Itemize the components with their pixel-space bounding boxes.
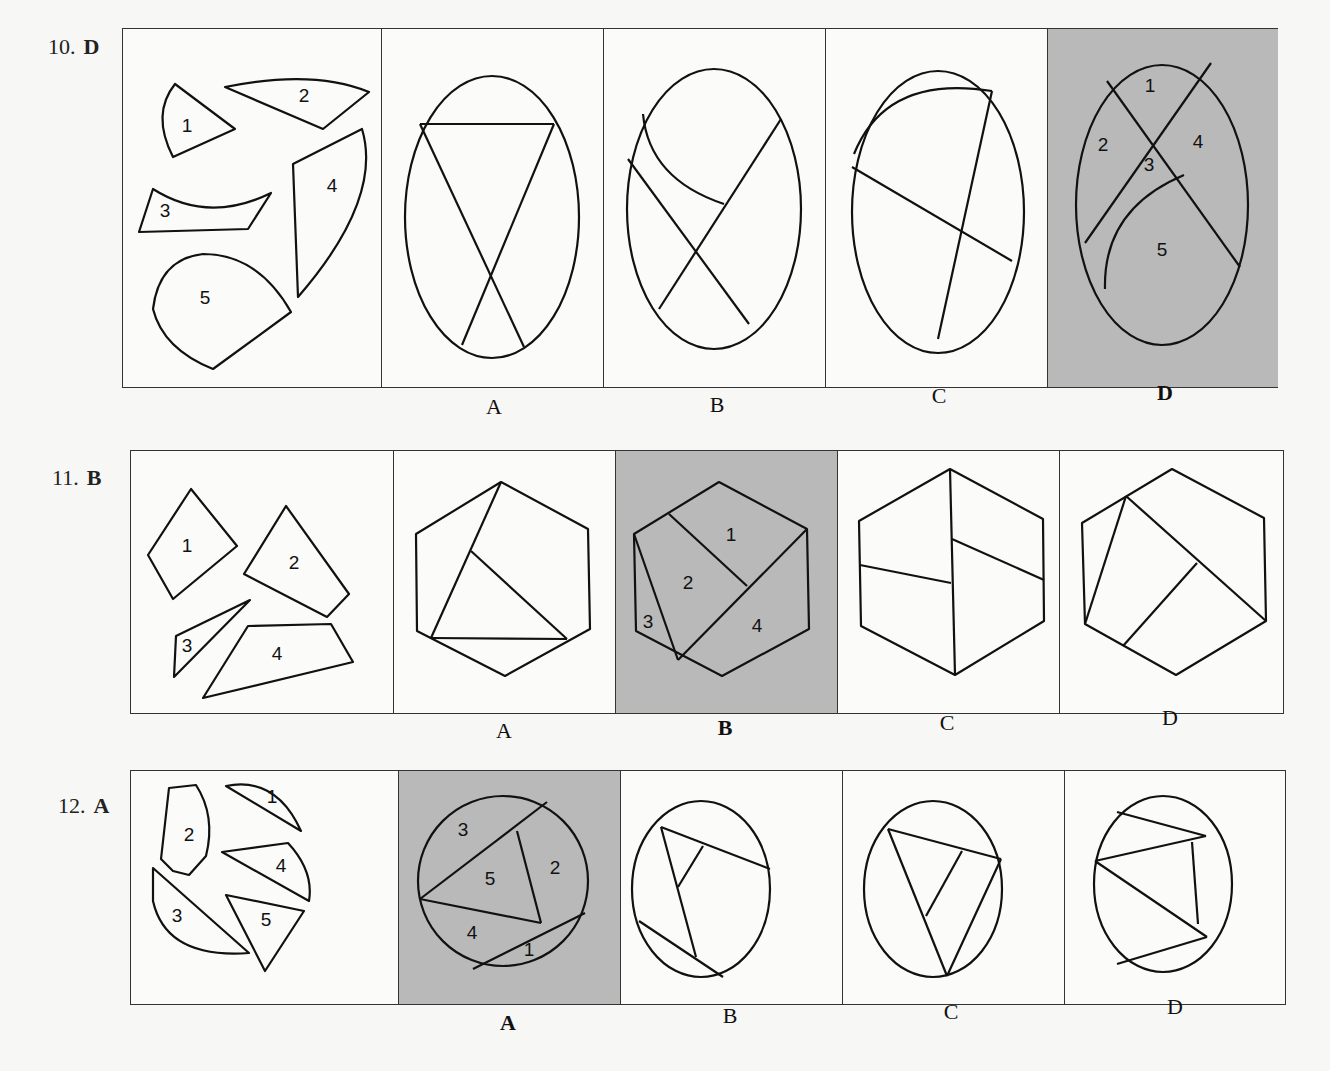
option-d-drawing bbox=[1060, 451, 1284, 713]
option-c-label: C bbox=[921, 999, 981, 1025]
pieces-drawing: 1 2 3 4 bbox=[131, 451, 393, 713]
svg-text:1: 1 bbox=[726, 524, 737, 545]
option-b-drawing: 1 2 3 4 bbox=[616, 451, 838, 713]
svg-text:1: 1 bbox=[1145, 75, 1156, 96]
option-b-label: B bbox=[687, 392, 747, 418]
option-b-label: B bbox=[700, 1003, 760, 1029]
option-d[interactable] bbox=[1059, 451, 1284, 713]
question-10-label: 10.D bbox=[48, 34, 99, 60]
svg-text:4: 4 bbox=[752, 615, 763, 636]
svg-text:3: 3 bbox=[160, 200, 171, 221]
svg-text:2: 2 bbox=[184, 824, 195, 845]
option-b-drawing bbox=[621, 771, 843, 1004]
option-d-label: D bbox=[1145, 994, 1205, 1020]
option-a-label: A bbox=[464, 394, 524, 420]
svg-text:5: 5 bbox=[485, 868, 496, 889]
question-12-row: 2 1 4 3 5 3 5 2 4 1 bbox=[130, 770, 1286, 1005]
option-d[interactable]: 1 2 3 4 5 bbox=[1047, 29, 1278, 387]
svg-text:5: 5 bbox=[200, 287, 211, 308]
pieces-panel: 1 2 3 4 bbox=[131, 451, 393, 713]
option-c[interactable] bbox=[837, 451, 1060, 713]
option-c-drawing bbox=[826, 29, 1048, 387]
option-a-label: A bbox=[474, 718, 534, 744]
svg-text:4: 4 bbox=[272, 643, 283, 664]
option-b-label: B bbox=[695, 715, 755, 741]
option-d-label: D bbox=[1135, 380, 1195, 406]
svg-text:2: 2 bbox=[550, 857, 561, 878]
svg-text:3: 3 bbox=[172, 905, 183, 926]
option-b-drawing bbox=[604, 29, 826, 387]
option-c-label: C bbox=[917, 710, 977, 736]
svg-text:2: 2 bbox=[299, 85, 310, 106]
svg-text:3: 3 bbox=[458, 819, 469, 840]
pieces-drawing: 1 2 3 4 5 bbox=[123, 29, 381, 387]
option-c[interactable] bbox=[842, 771, 1065, 1004]
option-c-drawing bbox=[843, 771, 1065, 1004]
option-b[interactable] bbox=[620, 771, 843, 1004]
svg-text:2: 2 bbox=[289, 552, 300, 573]
option-c-label: C bbox=[909, 383, 969, 409]
svg-text:1: 1 bbox=[182, 535, 193, 556]
option-a[interactable] bbox=[381, 29, 604, 387]
option-d-drawing: 1 2 3 4 5 bbox=[1048, 29, 1278, 387]
question-answer: A bbox=[94, 793, 110, 818]
svg-text:4: 4 bbox=[327, 175, 338, 196]
svg-text:3: 3 bbox=[643, 611, 654, 632]
pieces-drawing: 2 1 4 3 5 bbox=[131, 771, 398, 1004]
svg-text:5: 5 bbox=[261, 909, 272, 930]
option-b[interactable]: 1 2 3 4 bbox=[615, 451, 838, 713]
svg-text:1: 1 bbox=[267, 786, 278, 807]
question-number: 11. bbox=[52, 465, 79, 490]
option-a[interactable] bbox=[393, 451, 616, 713]
option-a-drawing: 3 5 2 4 1 bbox=[399, 771, 621, 1004]
question-answer: D bbox=[84, 34, 100, 59]
option-a[interactable]: 3 5 2 4 1 bbox=[398, 771, 621, 1004]
question-number: 12. bbox=[58, 793, 86, 818]
option-b[interactable] bbox=[603, 29, 826, 387]
option-a-drawing bbox=[394, 451, 616, 713]
question-10-row: 1 2 3 4 5 bbox=[122, 28, 1278, 388]
pieces-panel: 1 2 3 4 5 bbox=[123, 29, 381, 387]
svg-text:4: 4 bbox=[467, 922, 478, 943]
svg-text:1: 1 bbox=[182, 115, 193, 136]
svg-text:3: 3 bbox=[1144, 154, 1155, 175]
svg-text:2: 2 bbox=[683, 572, 694, 593]
option-d[interactable] bbox=[1064, 771, 1286, 1004]
svg-text:4: 4 bbox=[1193, 131, 1204, 152]
question-12-label: 12.A bbox=[58, 793, 109, 819]
svg-text:1: 1 bbox=[524, 939, 535, 960]
pieces-panel: 2 1 4 3 5 bbox=[131, 771, 398, 1004]
svg-text:3: 3 bbox=[182, 635, 193, 656]
option-d-drawing bbox=[1065, 771, 1286, 1004]
option-c[interactable] bbox=[825, 29, 1048, 387]
svg-text:5: 5 bbox=[1157, 239, 1168, 260]
svg-text:2: 2 bbox=[1098, 134, 1109, 155]
question-11-row: 1 2 3 4 1 2 3 4 bbox=[130, 450, 1284, 714]
question-answer: B bbox=[87, 465, 102, 490]
option-d-label: D bbox=[1140, 705, 1200, 731]
question-11-label: 11.B bbox=[52, 465, 101, 491]
svg-text:4: 4 bbox=[276, 855, 287, 876]
option-a-label: A bbox=[478, 1010, 538, 1036]
question-number: 10. bbox=[48, 34, 76, 59]
option-c-drawing bbox=[838, 451, 1060, 713]
option-a-drawing bbox=[382, 29, 604, 387]
